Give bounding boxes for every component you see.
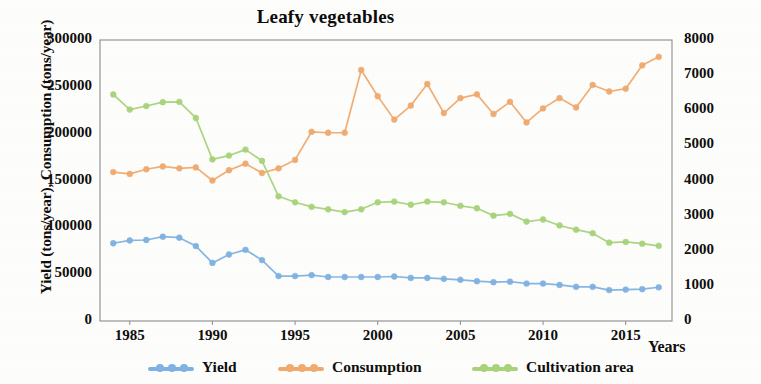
data-point	[325, 274, 331, 280]
data-point	[292, 157, 298, 163]
data-point	[193, 243, 199, 249]
data-point	[606, 89, 612, 95]
data-point	[193, 164, 199, 170]
data-point	[573, 105, 579, 111]
legend-marker-dot	[286, 364, 294, 372]
data-point	[639, 286, 645, 292]
data-point	[606, 287, 612, 293]
data-point	[507, 99, 513, 105]
legend-marker-dot	[156, 364, 164, 372]
data-point	[424, 199, 430, 205]
data-point	[557, 95, 563, 101]
data-point	[524, 219, 530, 225]
legend-marker-dot	[310, 364, 318, 372]
data-point	[243, 247, 249, 253]
data-point	[342, 130, 348, 136]
data-point	[457, 95, 463, 101]
data-point	[342, 274, 348, 280]
data-point	[325, 206, 331, 212]
data-point	[143, 237, 149, 243]
data-point	[210, 260, 216, 266]
data-point	[457, 277, 463, 283]
data-point	[441, 110, 447, 116]
data-point	[127, 171, 133, 177]
data-point	[639, 62, 645, 68]
data-point	[656, 284, 662, 290]
data-point	[160, 99, 166, 105]
data-point	[210, 157, 216, 163]
series-cultivation-area	[110, 92, 661, 249]
data-point	[176, 235, 182, 241]
data-point	[127, 238, 133, 244]
data-point	[309, 272, 315, 278]
plot-area	[0, 0, 761, 384]
data-point	[259, 158, 265, 164]
chart-legend: YieldConsumptionCultivation area	[0, 358, 761, 384]
data-point	[623, 239, 629, 245]
data-point	[557, 223, 563, 229]
data-point	[623, 287, 629, 293]
plot-border	[100, 40, 672, 321]
data-point	[474, 205, 480, 211]
data-point	[226, 153, 232, 159]
data-point	[540, 281, 546, 287]
plot-frame	[100, 40, 672, 325]
data-point	[590, 284, 596, 290]
data-point	[309, 129, 315, 135]
legend-marker-dot	[492, 364, 500, 372]
data-point	[408, 275, 414, 281]
data-point	[358, 274, 364, 280]
legend-marker-dot	[480, 364, 488, 372]
data-point	[424, 81, 430, 87]
data-point	[474, 278, 480, 284]
legend-label: Cultivation area	[526, 358, 634, 376]
chart-figure: Leafy vegetables Yield (tons/year), Cons…	[0, 0, 761, 384]
data-point	[441, 199, 447, 205]
data-point	[540, 105, 546, 111]
data-point	[590, 230, 596, 236]
legend-marker-dot	[504, 364, 512, 372]
data-point	[358, 67, 364, 73]
data-point	[573, 284, 579, 290]
data-point	[143, 166, 149, 172]
data-series-group	[110, 54, 661, 293]
data-point	[623, 86, 629, 92]
data-point	[292, 199, 298, 205]
data-point	[259, 170, 265, 176]
data-point	[391, 199, 397, 205]
data-point	[606, 240, 612, 246]
data-point	[524, 120, 530, 126]
legend-label: Yield	[202, 358, 237, 376]
data-point	[292, 273, 298, 279]
data-point	[656, 243, 662, 249]
data-point	[243, 147, 249, 153]
data-point	[160, 234, 166, 240]
data-point	[193, 115, 199, 121]
data-point	[441, 276, 447, 282]
data-point	[160, 164, 166, 170]
data-point	[226, 252, 232, 258]
data-point	[259, 257, 265, 263]
legend-marker-dot	[168, 364, 176, 372]
data-point	[424, 275, 430, 281]
data-point	[276, 273, 282, 279]
legend-marker-dot	[180, 364, 188, 372]
data-point	[309, 204, 315, 210]
data-point	[375, 199, 381, 205]
data-point	[557, 282, 563, 288]
legend-label: Consumption	[332, 358, 422, 376]
data-point	[507, 211, 513, 217]
data-point	[143, 103, 149, 109]
data-point	[491, 111, 497, 117]
data-point	[540, 217, 546, 223]
data-point	[110, 169, 116, 175]
data-point	[276, 165, 282, 171]
data-point	[375, 93, 381, 99]
data-point	[408, 202, 414, 208]
data-point	[226, 167, 232, 173]
data-point	[573, 227, 579, 233]
data-point	[127, 107, 133, 113]
data-point	[639, 241, 645, 247]
data-point	[110, 92, 116, 98]
data-point	[391, 117, 397, 123]
